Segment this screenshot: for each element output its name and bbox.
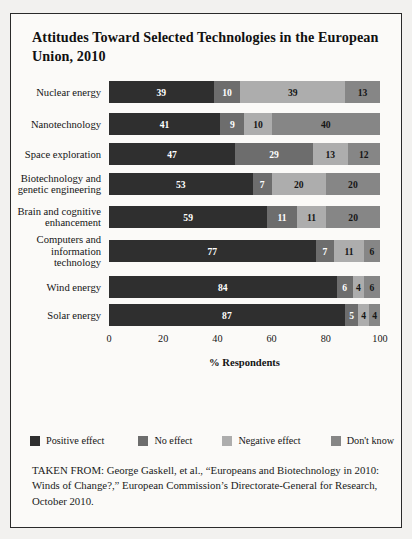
bar-segment: 6 <box>337 276 353 298</box>
bar-segment: 40 <box>272 113 380 135</box>
bar-segment: 11 <box>297 206 327 228</box>
figure-panel: Attitudes Toward Selected Technologies i… <box>10 13 402 528</box>
bar-segment: 39 <box>240 81 345 103</box>
legend-label: Positive effect <box>46 435 104 446</box>
x-axis-tick-label: 80 <box>321 333 331 344</box>
bar-row-label: Nuclear energy <box>11 87 109 99</box>
bar-track: 5372020 <box>109 173 380 195</box>
legend-label: Negative effect <box>238 435 300 446</box>
bar-segment: 87 <box>109 304 345 326</box>
legend-item: Don't know <box>331 435 394 446</box>
legend-swatch-icon <box>222 436 232 446</box>
bar-segment: 20 <box>272 173 326 195</box>
bar-segment: 4 <box>369 304 380 326</box>
bar-segment: 84 <box>109 276 337 298</box>
bar-segment: 29 <box>235 143 313 165</box>
legend-swatch-icon <box>138 436 148 446</box>
bar-segment: 7 <box>316 240 335 262</box>
x-axis-tick-label: 60 <box>267 333 277 344</box>
bar-row-label: Solar energy <box>11 310 109 322</box>
x-axis-tick-label: 20 <box>158 333 168 344</box>
bar-track: 87544 <box>109 304 380 326</box>
x-axis-tick-label: 0 <box>106 333 111 344</box>
legend-item: Positive effect <box>30 435 104 446</box>
legend-item: No effect <box>138 435 192 446</box>
bar-segment: 6 <box>364 276 380 298</box>
legend-label: No effect <box>154 435 192 446</box>
bar-segment: 13 <box>313 143 348 165</box>
bar-segment: 4 <box>353 276 364 298</box>
legend-label: Don't know <box>347 435 394 446</box>
legend-item: Negative effect <box>222 435 300 446</box>
bar-track: 59111120 <box>109 206 380 228</box>
x-axis-tick-label: 40 <box>212 333 222 344</box>
bar-row-label: Computers and information technology <box>11 234 109 270</box>
bar-row-label: Space exploration <box>11 149 109 161</box>
bar-segment: 11 <box>267 206 297 228</box>
bar-row: Space exploration47291312 <box>11 143 401 165</box>
bar-row-label: Biotechnology and genetic engineering <box>11 173 109 197</box>
source-citation: TAKEN FROM: George Gaskell, et al., “Eur… <box>32 463 381 509</box>
bar-row-label: Wind energy <box>11 282 109 294</box>
bar-row-label: Brain and cognitive enhancement <box>11 206 109 230</box>
x-axis: 020406080100 <box>109 333 380 353</box>
legend-swatch-icon <box>30 436 40 446</box>
bar-row: Nanotechnology4191040 <box>11 113 401 135</box>
stacked-bar-chart: Nuclear energy39103913Nanotechnology4191… <box>11 77 401 355</box>
bar-row-label: Nanotechnology <box>11 119 109 131</box>
bar-segment: 59 <box>109 206 267 228</box>
bar-segment: 9 <box>220 113 244 135</box>
bar-track: 84646 <box>109 276 380 298</box>
bar-segment: 10 <box>214 81 241 103</box>
x-axis-tick-label: 100 <box>372 333 387 344</box>
bar-row: Brain and cognitive enhancement59111120 <box>11 206 401 228</box>
bar-row: Solar energy87544 <box>11 304 401 326</box>
bar-segment: 12 <box>348 143 380 165</box>
bar-track: 47291312 <box>109 143 380 165</box>
bar-segment: 41 <box>109 113 220 135</box>
bar-segment: 5 <box>345 304 359 326</box>
bar-segment: 4 <box>358 304 369 326</box>
bar-row: Nuclear energy39103913 <box>11 81 401 103</box>
bar-segment: 39 <box>109 81 214 103</box>
bar-segment: 53 <box>109 173 253 195</box>
legend-swatch-icon <box>331 436 341 446</box>
bar-segment: 7 <box>253 173 272 195</box>
bar-segment: 11 <box>334 240 364 262</box>
figure-title: Attitudes Toward Selected Technologies i… <box>32 28 379 65</box>
bar-segment: 6 <box>364 240 380 262</box>
bar-track: 4191040 <box>109 113 380 135</box>
bar-segment: 77 <box>109 240 316 262</box>
bar-row: Wind energy84646 <box>11 276 401 298</box>
bar-segment: 13 <box>345 81 380 103</box>
x-axis-title: % Respondents <box>109 357 380 368</box>
bar-segment: 20 <box>326 173 380 195</box>
bar-track: 777116 <box>109 240 380 262</box>
bar-segment: 10 <box>244 113 271 135</box>
bar-track: 39103913 <box>109 81 380 103</box>
bar-row: Computers and information technology7771… <box>11 240 401 262</box>
bar-row: Biotechnology and genetic engineering537… <box>11 173 401 195</box>
bar-segment: 47 <box>109 143 235 165</box>
bar-segment: 20 <box>326 206 380 228</box>
chart-legend: Positive effectNo effectNegative effectD… <box>11 435 401 446</box>
